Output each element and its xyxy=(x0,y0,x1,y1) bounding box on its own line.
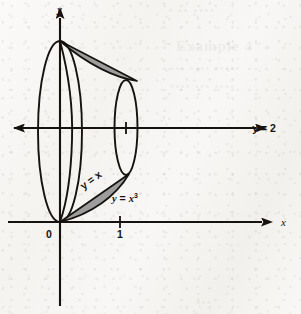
cubic-label-eq: = xyxy=(117,192,129,204)
curve-y-equals-x-cubed-label: y = x3 xyxy=(110,192,138,204)
x-tick-one-label: 1 xyxy=(117,228,123,240)
line-y-equals-x-label: y = x xyxy=(78,168,104,192)
axis-of-revolution-label: y = 2 xyxy=(252,122,276,134)
y-axis-label: y xyxy=(56,3,62,15)
x-axis-label: x xyxy=(280,216,286,228)
figure-canvas: • •• •••• Example 4 ••• •••• ••••• •••• … xyxy=(0,0,301,314)
shaded-region-top xyxy=(60,41,137,81)
revolution-figure-svg: y x y = 2 y = x y = x3 0 1 xyxy=(0,0,301,314)
cubic-label-exponent: 3 xyxy=(134,192,138,199)
origin-label: 0 xyxy=(46,228,52,240)
left-disc-inner-lip xyxy=(60,41,72,222)
